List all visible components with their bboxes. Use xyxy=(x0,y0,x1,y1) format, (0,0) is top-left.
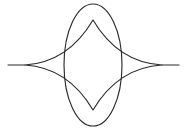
ellipse-shape xyxy=(64,4,122,126)
geometric-figure-svg xyxy=(0,0,187,131)
astroid-shape xyxy=(25,20,162,110)
figure-canvas xyxy=(0,0,187,131)
